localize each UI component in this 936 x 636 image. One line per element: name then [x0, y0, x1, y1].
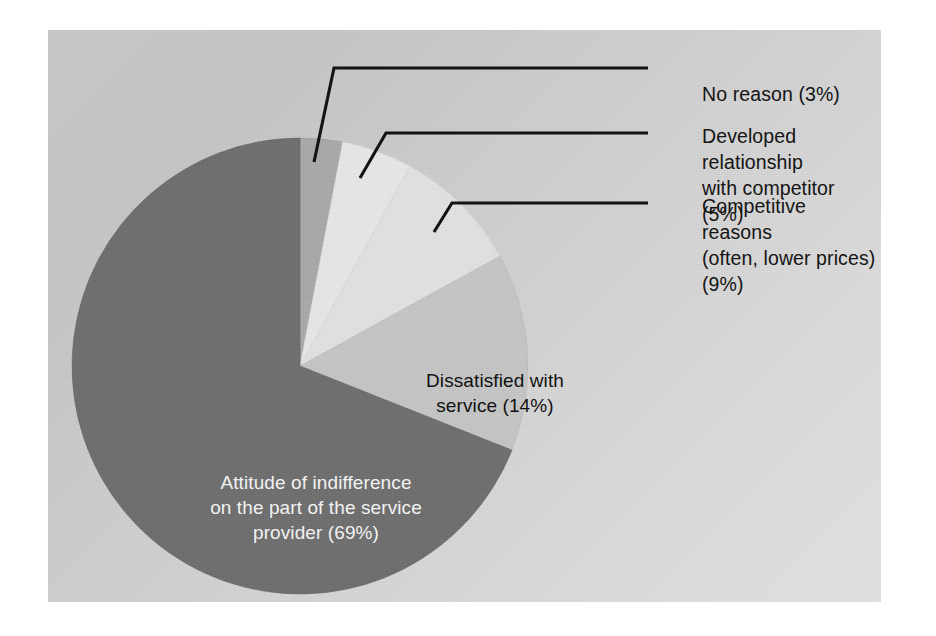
callout-label-no-reason: No reason (3%) [702, 81, 840, 107]
chart-figure: No reason (3%) Developed relationship wi… [48, 30, 881, 602]
slice-label-dissatisfied: Dissatisfied with service (14%) [378, 368, 612, 418]
slice-label-attitude-of-indifference: Attitude of indifference on the part of … [164, 470, 468, 545]
callout-label-competitive-reasons: Competitive reasons (often, lower prices… [702, 193, 881, 297]
